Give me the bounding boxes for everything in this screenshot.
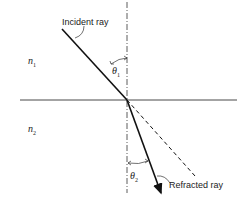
theta1-subscript: 1 [117, 72, 120, 78]
refracted-ray-label: Refracted ray [169, 181, 223, 190]
theta2-label: θ2 [130, 171, 138, 183]
theta1-label: θ1 [112, 66, 120, 78]
undeviated-ray [127, 100, 195, 176]
n2-subscript: 2 [33, 130, 36, 136]
diagram-lines [0, 0, 250, 202]
refraction-diagram: Incident ray Refracted ray n1 n2 θ1 θ2 [0, 0, 250, 202]
incident-ray [62, 29, 127, 100]
n1-label: n1 [28, 56, 36, 68]
incident-ray-label: Incident ray [62, 18, 109, 27]
theta2-subscript: 2 [135, 177, 138, 183]
incident-leader [75, 26, 84, 38]
theta1-arc [111, 58, 127, 64]
n1-subscript: 1 [33, 62, 36, 68]
n2-label: n2 [28, 124, 36, 136]
